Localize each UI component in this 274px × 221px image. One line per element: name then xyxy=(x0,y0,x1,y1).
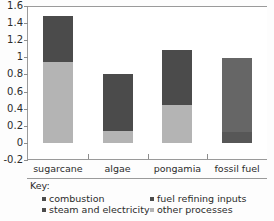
y-axis-tick xyxy=(24,23,28,24)
plot-area: 1.61.41.210.80.60.40.20-0.2 xyxy=(28,6,267,160)
y-axis-tick-label: -0.2 xyxy=(3,155,23,165)
x-axis-baseline xyxy=(27,178,267,179)
bar-algae[interactable] xyxy=(103,6,133,160)
legend-label: other processes xyxy=(157,204,233,215)
y-axis-tick xyxy=(24,74,28,75)
y-axis-tick-label: 1 xyxy=(17,52,23,62)
legend-label: fuel refining inputs xyxy=(157,193,247,204)
x-axis-label-algae: algae xyxy=(88,161,148,177)
legend-title: Key: xyxy=(30,180,270,191)
x-axis-tick xyxy=(88,154,89,159)
bar-segment-steam-and-electricity[interactable] xyxy=(103,74,133,130)
legend-item-fuel-refining-inputs[interactable]: fuel refining inputs xyxy=(150,193,247,204)
bar-sugarcane[interactable] xyxy=(43,6,73,160)
bar-segment-fuel-refining-inputs[interactable] xyxy=(222,132,252,143)
y-axis-tick xyxy=(24,57,28,58)
x-axis-tick xyxy=(207,154,208,159)
chart-container: 1.61.41.210.80.60.40.20-0.2 sugarcanealg… xyxy=(0,0,274,221)
bar-segment-steam-and-electricity[interactable] xyxy=(162,50,192,105)
legend-row: steam and electricityother processes xyxy=(42,204,270,215)
x-axis-label-sugarcane: sugarcane xyxy=(28,161,88,177)
y-axis-tick xyxy=(24,143,28,144)
y-axis-tick xyxy=(24,126,28,127)
y-axis-tick-label: 0.8 xyxy=(7,69,23,79)
legend-item-combustion[interactable]: combustion xyxy=(42,193,150,204)
bar-fossil-fuel[interactable] xyxy=(222,6,252,160)
chart-legend: Key: combustionfuel refining inputssteam… xyxy=(30,180,270,215)
y-axis-tick xyxy=(24,40,28,41)
y-axis-tick xyxy=(24,92,28,93)
legend-entries: combustionfuel refining inputssteam and … xyxy=(30,193,270,215)
legend-row: combustionfuel refining inputs xyxy=(42,193,270,204)
legend-item-other-processes[interactable]: other processes xyxy=(150,204,233,215)
bar-segment-combustion[interactable] xyxy=(222,58,252,132)
bar-pongamia[interactable] xyxy=(162,6,192,160)
y-axis-tick-label: 1.6 xyxy=(7,1,23,11)
bar-segment-other-processes[interactable] xyxy=(162,105,192,143)
y-axis-tick-label: 1.4 xyxy=(7,18,23,28)
bar-segment-steam-and-electricity[interactable] xyxy=(43,16,73,62)
y-axis-tick-label: 1.2 xyxy=(7,35,23,45)
y-axis-tick xyxy=(24,6,28,7)
x-axis-tick xyxy=(148,154,149,159)
legend-swatch-icon xyxy=(42,197,46,201)
legend-swatch-icon xyxy=(150,197,154,201)
legend-label: steam and electricity xyxy=(49,204,150,215)
legend-label: combustion xyxy=(49,193,105,204)
bar-segment-other-processes[interactable] xyxy=(43,62,73,142)
x-axis-label-fossil-fuel: fossil fuel xyxy=(207,161,267,177)
legend-swatch-icon xyxy=(150,208,154,212)
y-axis-tick xyxy=(24,109,28,110)
x-axis-label-pongamia: pongamia xyxy=(148,161,208,177)
bar-segment-other-processes[interactable] xyxy=(103,131,133,143)
y-axis-tick-label: 0.6 xyxy=(7,87,23,97)
legend-swatch-icon xyxy=(42,208,46,212)
x-axis-line xyxy=(27,159,267,160)
y-axis-tick-label: 0.2 xyxy=(7,121,23,131)
y-axis-tick-label: 0 xyxy=(17,138,23,148)
y-axis-tick-label: 0.4 xyxy=(7,104,23,114)
legend-item-steam-and-electricity[interactable]: steam and electricity xyxy=(42,204,150,215)
